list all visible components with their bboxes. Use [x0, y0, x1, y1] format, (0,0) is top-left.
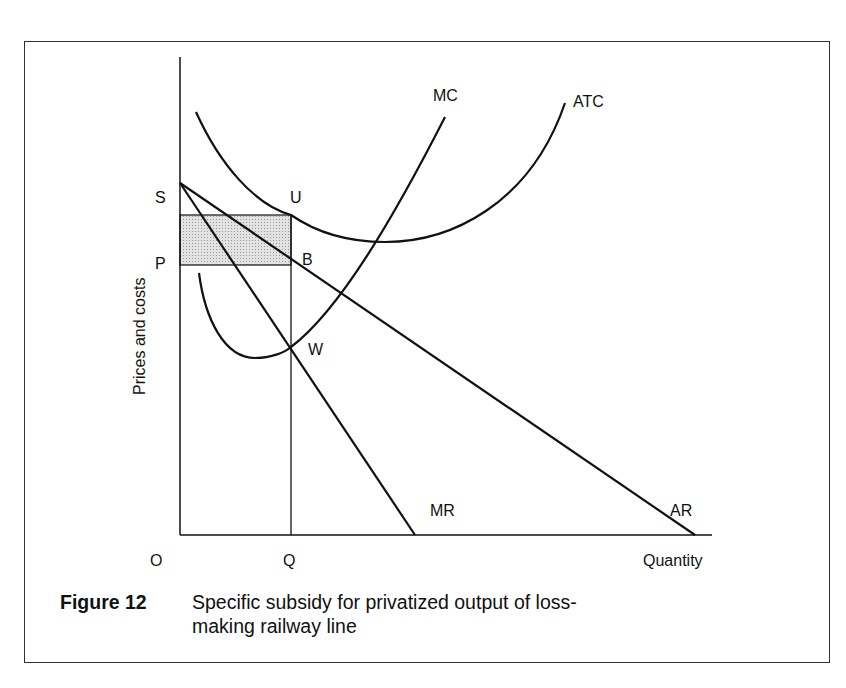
ar-label: AR: [670, 503, 692, 519]
caption-line-2: making railway line: [192, 615, 357, 637]
chart-plot: [0, 0, 846, 688]
y-axis-label: Prices and costs: [131, 278, 149, 395]
x-axis-label: Quantity: [643, 553, 703, 569]
mr-label: MR: [430, 503, 455, 519]
figure-caption: Figure 12Specific subsidy for privatized…: [60, 590, 752, 638]
u-label: U: [290, 190, 302, 206]
mc-label: MC: [433, 88, 458, 104]
w-label: W: [308, 342, 323, 358]
q-label: Q: [283, 553, 295, 569]
subsidy-area: [180, 215, 291, 265]
p-label: P: [155, 256, 166, 272]
s-label: S: [155, 190, 166, 206]
figure-number: Figure 12: [60, 590, 192, 614]
atc-label: ATC: [573, 94, 604, 110]
caption-line-1: Specific subsidy for privatized output o…: [192, 591, 577, 613]
b-label: B: [302, 252, 313, 268]
origin-label: O: [150, 553, 162, 569]
